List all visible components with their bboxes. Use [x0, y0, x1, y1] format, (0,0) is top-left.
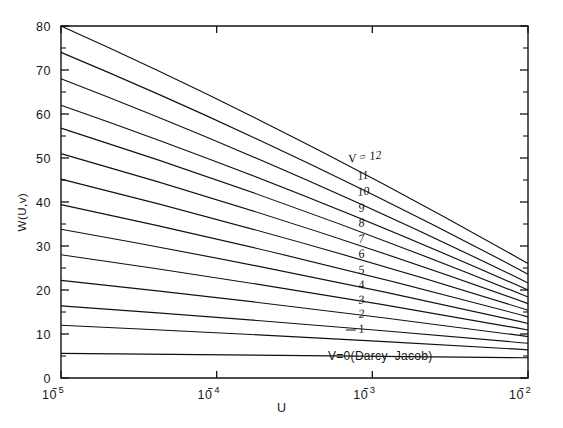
chart-plot: 01020304050607080 105104103102 V = 12111… [0, 0, 563, 428]
x-tick-mantissa: 10 [353, 388, 368, 402]
y-axis-title: W(U,v) [16, 193, 28, 232]
y-tick-label: 70 [36, 64, 51, 78]
y-tick-label: 60 [36, 108, 51, 122]
x-tick-mantissa: 10 [509, 388, 524, 402]
x-tick-exponent: 5 [59, 384, 64, 395]
y-tick-label: 50 [36, 152, 51, 166]
y-tick-label: 30 [36, 240, 51, 254]
x-tick-exponent: 4 [214, 384, 219, 395]
curve-label-0: V=0(Darcy–Jacob) [328, 349, 433, 363]
figure-container: 01020304050607080 105104103102 V = 12111… [0, 0, 563, 428]
x-tick-mantissa: 10 [42, 388, 57, 402]
x-tick-exponent: 3 [370, 384, 375, 395]
x-axis-title: U [277, 401, 287, 415]
x-tick-mantissa: 10 [198, 388, 213, 402]
y-tick-label: 40 [36, 196, 51, 210]
y-tick-label: 0 [43, 372, 51, 386]
chart-background [0, 0, 563, 428]
y-tick-label: 10 [36, 328, 51, 342]
curve-label-10: 10 [356, 183, 370, 199]
curve-label-11: 11 [356, 168, 369, 183]
y-tick-label: 80 [36, 20, 51, 34]
x-tick-exponent: 2 [526, 384, 531, 395]
y-tick-label: 20 [36, 284, 51, 298]
y-axis-tick-labels: 01020304050607080 [36, 20, 51, 386]
